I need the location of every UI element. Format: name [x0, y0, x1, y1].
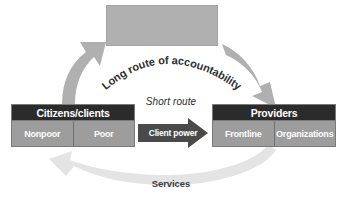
actor-cells-citizens: Nonpoor Poor: [12, 121, 134, 146]
actor-box-providers[interactable]: Providers Frontline Organizations: [212, 104, 336, 147]
short-route-label: Short route: [0, 96, 342, 107]
actor-cell-nonpoor[interactable]: Nonpoor: [12, 121, 73, 146]
diagram-canvas: Long route of accountability Citizens/cl…: [0, 0, 342, 199]
voice-arrow: [62, 42, 106, 104]
actor-cells-providers: Frontline Organizations: [213, 121, 335, 146]
actor-header-citizens: Citizens/clients: [12, 105, 134, 121]
actor-cell-frontline[interactable]: Frontline: [213, 121, 274, 146]
long-route-label: Long route of accountability: [99, 54, 244, 93]
services-label: Services: [0, 178, 342, 189]
actor-cell-poor[interactable]: Poor: [73, 121, 135, 146]
actor-box-citizens[interactable]: Citizens/clients Nonpoor Poor: [11, 104, 135, 147]
client-power-arrow: [138, 118, 208, 148]
actor-header-providers: Providers: [213, 105, 335, 121]
actor-cell-organizations[interactable]: Organizations: [274, 121, 336, 146]
top-box: [106, 5, 218, 46]
